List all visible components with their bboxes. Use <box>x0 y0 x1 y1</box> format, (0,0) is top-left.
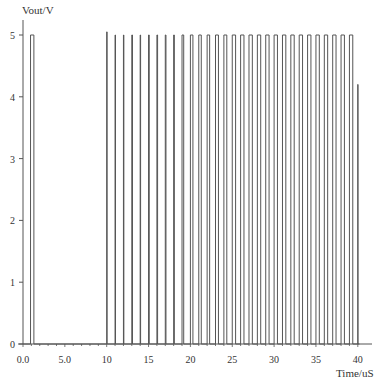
x-tick-label: 5.0 <box>59 354 72 365</box>
y-tick-label: 2 <box>10 215 15 226</box>
y-tick-label: 1 <box>10 277 15 288</box>
x-tick-label: 25 <box>227 354 237 365</box>
vout-trace <box>23 32 359 344</box>
x-tick-label: 0.0 <box>17 354 30 365</box>
x-axis-label: Time/uS <box>336 367 374 379</box>
y-tick-label: 3 <box>10 154 15 165</box>
x-tick-label: 30 <box>269 354 279 365</box>
vout-line <box>23 32 359 344</box>
y-axis-label: Vout/V <box>22 4 54 16</box>
x-tick-label: 20 <box>185 354 195 365</box>
x-tick-label: 35 <box>311 354 321 365</box>
axis-ticks: 0123450.05.010152025303540 <box>10 30 363 365</box>
x-tick-label: 40 <box>353 354 363 365</box>
y-tick-label: 0 <box>10 339 15 350</box>
y-tick-label: 4 <box>10 92 15 103</box>
x-tick-label: 15 <box>144 354 154 365</box>
y-tick-label: 5 <box>10 30 15 41</box>
pulse-chart: 0123450.05.010152025303540 Vout/V Time/u… <box>0 0 383 386</box>
x-tick-label: 10 <box>102 354 112 365</box>
